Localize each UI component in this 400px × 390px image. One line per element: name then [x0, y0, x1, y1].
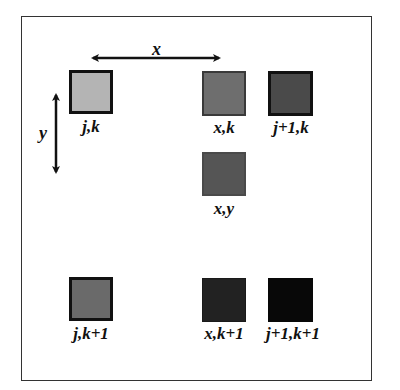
pixel-j-k1: [69, 277, 113, 321]
pixel-j-k-label: j,k: [82, 118, 99, 135]
pixel-j1-k-label: j+1,k: [273, 119, 309, 136]
y-axis-label: y: [39, 124, 47, 142]
pixel-j-k1-label: j,k+1: [73, 325, 109, 342]
pixel-x-y: [202, 152, 246, 196]
pixel-j1-k1: [268, 278, 313, 322]
pixel-x-k-label: x,k: [213, 119, 234, 136]
pixel-j1-k1-label: j+1,k+1: [266, 325, 320, 342]
pixel-j-k: [69, 70, 113, 114]
pixel-x-k: [202, 71, 246, 116]
pixel-x-k1: [202, 278, 246, 322]
pixel-j1-k: [268, 71, 313, 116]
x-axis-label: x: [152, 40, 161, 58]
pixel-x-k1-label: x,k+1: [204, 325, 243, 342]
pixel-x-y-label: x,y: [214, 200, 234, 217]
